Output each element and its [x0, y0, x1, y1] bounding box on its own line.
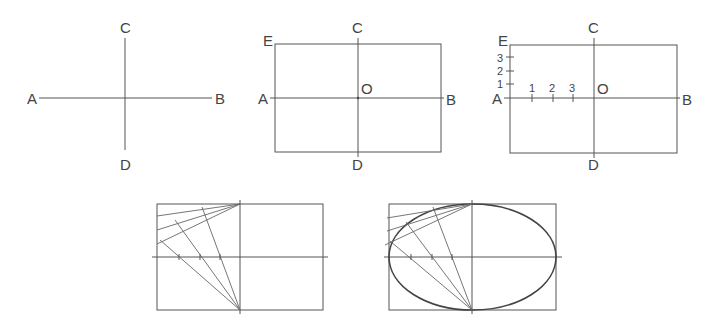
label-c: C [588, 19, 599, 36]
division-label-1: 1 [497, 78, 503, 90]
construction-line [202, 207, 240, 310]
figure-2-rectangle: A B C D E O [258, 19, 456, 173]
label-a: A [492, 90, 502, 107]
label-o: O [361, 80, 373, 97]
label-b: B [682, 91, 692, 108]
division-label-2: 2 [497, 65, 503, 77]
construction-line [157, 204, 240, 230]
label-c: C [352, 19, 363, 36]
label-d: D [588, 156, 599, 173]
figure-5-completed-ellipse [384, 200, 562, 314]
ellipse-construction-diagram: A B C D A B C D E O 1 2 3 1 2 3 A B [0, 0, 715, 331]
division-label-2: 2 [549, 82, 555, 94]
label-b: B [215, 90, 225, 107]
label-a: A [258, 90, 268, 107]
construction-line [390, 241, 472, 310]
label-c: C [120, 19, 131, 36]
label-d: D [120, 156, 131, 173]
figure-4-construction-lines [152, 200, 328, 314]
construction-line [385, 204, 472, 245]
figure-1-axes: A B C D [27, 19, 225, 173]
label-e: E [498, 32, 508, 49]
division-label-1: 1 [529, 82, 535, 94]
label-a: A [27, 90, 37, 107]
center-point [357, 97, 359, 99]
construction-line [175, 220, 240, 310]
label-e: E [263, 32, 273, 49]
division-label-3: 3 [497, 52, 503, 64]
figure-3-divisions: 1 2 3 1 2 3 A B C D E O [492, 19, 692, 173]
label-b: B [446, 91, 456, 108]
label-o: O [597, 80, 609, 97]
construction-line [387, 204, 472, 231]
division-label-3: 3 [569, 82, 575, 94]
construction-line [160, 240, 240, 310]
construction-line [387, 204, 472, 218]
label-d: D [352, 156, 363, 173]
